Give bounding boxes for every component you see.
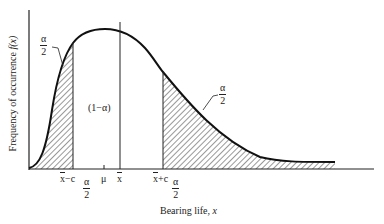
right-tail-area: [163, 72, 335, 169]
distribution-plot: [0, 0, 384, 224]
x-axis-label: Bearing life, x: [160, 206, 217, 216]
right-alpha-half-label: α2: [219, 83, 226, 106]
center-region-label: (1−α): [88, 103, 111, 113]
xbar-label: x: [117, 174, 122, 184]
lower-limit-subscript: α2: [83, 177, 90, 200]
right-alpha-leader: [203, 95, 218, 110]
upper-limit-subscript: α2: [172, 177, 179, 200]
mu-label: μ: [101, 174, 106, 184]
y-axis-label: Frequency of occurrence f(x): [7, 24, 18, 164]
left-alpha-leader: [52, 47, 63, 66]
lower-limit-label: x−c: [60, 174, 75, 184]
left-alpha-half-label: α2: [40, 34, 47, 57]
left-tail-area: [29, 43, 73, 169]
upper-limit-label: x+c: [153, 174, 168, 184]
